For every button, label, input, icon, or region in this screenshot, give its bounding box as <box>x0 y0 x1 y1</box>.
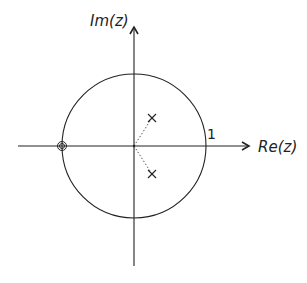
imag-axis-label: Im(z) <box>90 14 129 29</box>
real-axis-label: Re(z) <box>258 140 297 155</box>
unit-circle-label: 1 <box>207 127 216 141</box>
pole-lower-icon <box>148 170 156 178</box>
pole-guide-upper <box>134 121 150 146</box>
pole-guide-lower <box>134 146 150 171</box>
pole-zero-diagram: Im(z) Re(z) 1 <box>0 0 307 283</box>
pole-upper-icon <box>148 114 156 122</box>
origin-point <box>133 145 135 147</box>
